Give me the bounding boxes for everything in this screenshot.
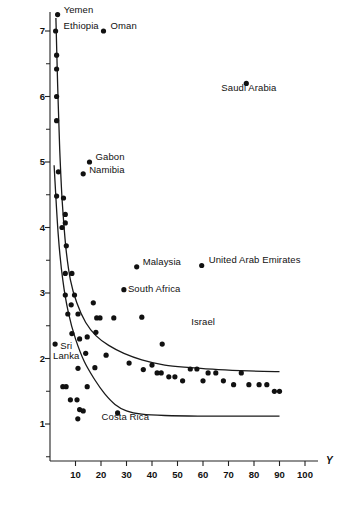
y-tick-label: 6 xyxy=(33,91,45,102)
point-label-yemen: Yemen xyxy=(64,5,94,16)
data-point xyxy=(54,118,59,123)
data-point xyxy=(172,374,177,379)
x-tick-label: 80 xyxy=(240,469,268,480)
data-point xyxy=(56,169,61,174)
data-point xyxy=(199,263,204,268)
point-label-saudi-arabia: Saudi Arabia xyxy=(221,83,276,94)
data-point xyxy=(63,212,68,217)
data-point xyxy=(85,384,90,389)
point-label-united-arab-emirates: United Arab Emirates xyxy=(209,255,301,266)
data-point xyxy=(63,292,68,297)
data-point xyxy=(64,243,69,248)
x-tick-label: 50 xyxy=(164,469,192,480)
upper-envelope xyxy=(56,18,280,372)
data-point xyxy=(74,397,79,402)
data-point xyxy=(194,366,199,371)
x-tick-label: 20 xyxy=(87,469,115,480)
data-point xyxy=(160,342,165,347)
x-tick-label: 100 xyxy=(291,469,319,480)
data-point xyxy=(104,353,109,358)
data-point xyxy=(72,292,77,297)
data-point xyxy=(141,367,146,372)
data-point xyxy=(180,378,185,383)
x-tick-label: 10 xyxy=(62,469,90,480)
point-label-ethiopia: Ethiopia xyxy=(64,21,99,32)
x-tick-label: 60 xyxy=(189,469,217,480)
data-point xyxy=(257,382,262,387)
data-point xyxy=(111,315,116,320)
data-point xyxy=(85,334,90,339)
data-point xyxy=(68,397,73,402)
y-tick-label: 7 xyxy=(33,25,45,36)
data-point xyxy=(69,331,74,336)
data-point xyxy=(101,28,106,33)
data-point xyxy=(159,370,164,375)
data-point xyxy=(54,94,59,99)
x-axis-title: Y xyxy=(326,455,333,466)
data-point xyxy=(134,264,139,269)
axis-lines xyxy=(45,12,318,466)
data-point xyxy=(231,382,236,387)
data-point xyxy=(53,28,58,33)
y-tick-label: 4 xyxy=(33,222,45,233)
x-tick-label: 90 xyxy=(266,469,294,480)
data-point xyxy=(63,220,68,225)
data-point xyxy=(59,225,64,230)
data-point xyxy=(97,315,102,320)
data-point xyxy=(188,366,193,371)
data-point xyxy=(75,416,80,421)
data-point xyxy=(81,171,86,176)
x-tick-label: 40 xyxy=(138,469,166,480)
point-label-costa-rica: Costa Rica xyxy=(102,412,149,423)
scatter-chart: YemenEthiopiaOmanSaudi ArabiaGabonNamibi… xyxy=(0,0,355,512)
point-label-oman: Oman xyxy=(111,21,137,32)
data-point xyxy=(54,194,59,199)
data-point xyxy=(65,311,70,316)
data-point xyxy=(61,195,66,200)
data-point xyxy=(93,330,98,335)
data-point xyxy=(213,370,218,375)
point-label-malaysia: Malaysia xyxy=(143,257,181,268)
point-label-namibia: Namibia xyxy=(89,165,125,176)
data-point xyxy=(246,382,251,387)
data-point xyxy=(264,382,269,387)
data-point xyxy=(75,366,80,371)
point-label-sri-lanka: Sri Lanka xyxy=(53,341,79,361)
y-tick-label: 3 xyxy=(33,287,45,298)
data-points xyxy=(53,12,283,421)
data-point xyxy=(91,300,96,305)
data-point xyxy=(55,12,60,17)
data-point xyxy=(54,53,59,58)
point-label-gabon: Gabon xyxy=(96,152,125,163)
data-point xyxy=(63,271,68,276)
data-point xyxy=(272,389,277,394)
data-point xyxy=(239,370,244,375)
data-point xyxy=(64,384,69,389)
envelope-curves xyxy=(54,18,279,416)
data-point xyxy=(121,287,126,292)
data-point xyxy=(166,374,171,379)
data-point xyxy=(92,365,97,370)
data-point xyxy=(206,370,211,375)
data-point xyxy=(200,378,205,383)
data-point xyxy=(54,66,59,71)
data-point xyxy=(75,311,80,316)
y-tick-label: 1 xyxy=(33,418,45,429)
x-tick-label: 30 xyxy=(113,469,141,480)
data-point xyxy=(69,271,74,276)
point-label-south-africa: South Africa xyxy=(128,284,180,295)
x-tick-label: 70 xyxy=(215,469,243,480)
data-point xyxy=(149,363,154,368)
data-point xyxy=(127,361,132,366)
data-point xyxy=(83,351,88,356)
data-point xyxy=(221,378,226,383)
y-tick-label: 2 xyxy=(33,353,45,364)
data-point xyxy=(69,302,74,307)
y-tick-label: 5 xyxy=(33,156,45,167)
data-point xyxy=(81,408,86,413)
data-point xyxy=(277,389,282,394)
data-point xyxy=(139,315,144,320)
point-label-israel: Israel xyxy=(191,317,215,328)
